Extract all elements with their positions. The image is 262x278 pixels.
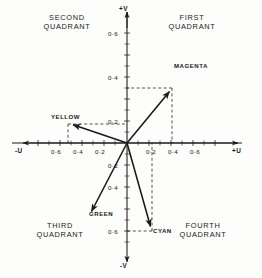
y-tick-label-pos-0-2: 0·2 bbox=[108, 118, 118, 125]
quadrant-label-first: FIRST QUADRANT bbox=[156, 14, 228, 31]
vector-magenta bbox=[127, 92, 170, 144]
vectors bbox=[73, 92, 170, 227]
y-tick-label-neg-0-2: 0·2 bbox=[108, 162, 118, 169]
projection-lines bbox=[68, 88, 172, 231]
quadrant-first-line2: QUADRANT bbox=[156, 23, 228, 32]
quadrant-fourth-line2: QUADRANT bbox=[167, 231, 239, 240]
axis-label-negative-u: -U bbox=[15, 147, 23, 155]
y-tick-label-neg-0-4: 0·4 bbox=[108, 184, 118, 191]
y-tick-label-neg-0-6: 0·6 bbox=[108, 228, 118, 235]
vector-cyan bbox=[127, 143, 151, 227]
x-tick-label-neg-0-2: 0·2 bbox=[95, 148, 105, 155]
quadrant-label-fourth: FOURTH QUADRANT bbox=[167, 222, 239, 239]
axis-label-positive-u: +U bbox=[232, 147, 241, 155]
x-tick-label-pos-0-4: 0·4 bbox=[168, 148, 178, 155]
vector-label-green: GREEN bbox=[89, 210, 113, 217]
x-tick-label-neg-0-6: 0·6 bbox=[51, 148, 61, 155]
quadrant-third-line2: QUADRANT bbox=[24, 231, 96, 240]
vector-diagram-figure: +V -V -U +U 0·6 0·4 0·2 0·2 0·4 0·6 0·6 … bbox=[0, 0, 262, 278]
quadrant-second-line2: QUADRANT bbox=[31, 23, 103, 32]
quadrant-label-third: THIRD QUADRANT bbox=[24, 222, 96, 239]
x-tick-label-pos-0-2: 0·2 bbox=[146, 148, 156, 155]
axis-label-negative-v: -V bbox=[120, 262, 127, 270]
x-tick-label-neg-0-4: 0·4 bbox=[73, 148, 83, 155]
vector-label-magenta: MAGENTA bbox=[174, 62, 208, 69]
vector-yellow bbox=[73, 125, 127, 143]
y-tick-label-pos-0-6: 0·6 bbox=[108, 30, 118, 37]
x-tick-label-pos-0-6: 0·6 bbox=[190, 148, 200, 155]
quadrant-label-second: SECOND QUADRANT bbox=[31, 14, 103, 31]
axis-label-positive-v: +V bbox=[119, 5, 128, 13]
y-tick-label-pos-0-4: 0·4 bbox=[108, 74, 118, 81]
vector-label-yellow: YELLOW bbox=[51, 113, 80, 120]
